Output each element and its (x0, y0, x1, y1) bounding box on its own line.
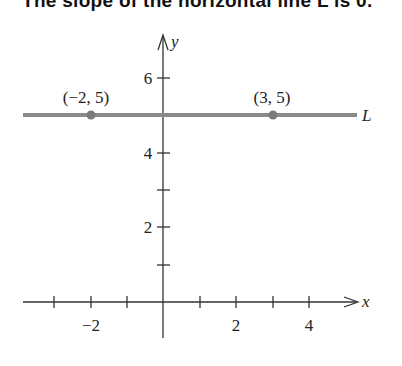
y-axis-label: y (169, 32, 179, 51)
point-label: (−2, 5) (63, 88, 109, 107)
chart: −2 2 4 x 6 4 2 y L (−2, 5) (3, 5) (0, 0, 402, 366)
y-axis: 6 4 2 y (144, 32, 179, 338)
x-tick-label: 2 (232, 316, 241, 335)
x-tick-label: 4 (305, 316, 314, 335)
x-tick-label: −2 (82, 316, 100, 335)
line-L: L (23, 106, 371, 125)
y-tick-label: 6 (144, 69, 153, 88)
x-axis: −2 2 4 x (23, 292, 370, 335)
line-label: L (361, 106, 371, 125)
x-axis-label: x (361, 292, 370, 311)
y-tick-label: 4 (144, 144, 153, 163)
y-tick-label: 2 (144, 218, 153, 237)
point-dot (269, 111, 278, 120)
point-dot (87, 111, 96, 120)
point-label: (3, 5) (254, 88, 291, 107)
